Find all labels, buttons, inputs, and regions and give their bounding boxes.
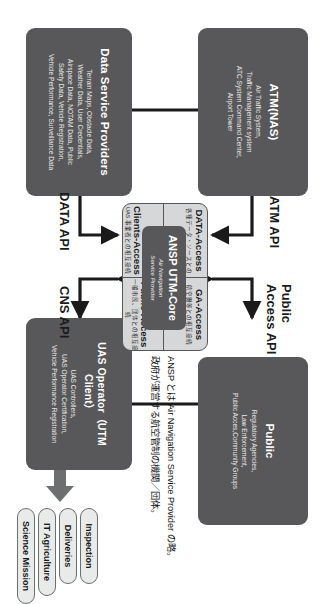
ansp-utm-core[interactable]: ANSP UTM-Core Air Navigation Service Pro… [142, 226, 186, 330]
box-public-subtitle: Regulatory Agencies, Law Enforcement, Pu… [230, 393, 258, 489]
arrow-data-api [80, 196, 118, 235]
arrow-public-api [212, 279, 252, 318]
ansp-utm-core-title: ANSP UTM-Core [167, 235, 179, 321]
pill-science-mission[interactable]: Science Mission [17, 508, 35, 604]
box-data-service-providers[interactable]: Data Service Providers Terrain Maps, Obs… [26, 28, 132, 196]
label-public-access-api: Public Access API [264, 284, 294, 354]
pill-inspection[interactable]: Inspection [80, 508, 98, 584]
quad-data-access-title: DATA-Access [194, 209, 205, 271]
box-dsp-subtitle: Terrain Maps, Obstacle Data, Weather Dat… [47, 54, 94, 170]
box-public-title: Public [263, 423, 276, 458]
box-public[interactable]: Public Regulatory Agencies, Law Enforcem… [198, 357, 308, 525]
label-data-api: DATA API [57, 192, 72, 251]
box-uas-subtitle: UAS Controllers, UAS Operator Certificat… [50, 345, 78, 443]
pill-deliveries[interactable]: Deliveries [59, 508, 77, 584]
box-uas-operator[interactable]: UAS Operator（UTM Client） UAS Controllers… [26, 318, 132, 470]
box-atm-subtitle: Air Traffic System, Traffic Management s… [226, 66, 264, 158]
box-uas-title: UAS Operator（UTM Client） [82, 324, 108, 464]
note-ansp-line2: 政府が運営する航空管制の機関／団体。 [147, 356, 162, 518]
label-atm-api: ATM API [267, 196, 282, 248]
quad-ga-access-subtitle: 航空機等との相互接続 [186, 285, 193, 345]
quad-public-access-subtitle: 一般市民、団体との相互接続 [124, 278, 138, 351]
note-ansp-line1: ANSP とは Air Navigation Service Provider … [163, 356, 178, 561]
ansp-utm-core-subtitle: Air Navigation Service Provider [149, 255, 165, 300]
box-dsp-title: Data Service Providers [98, 48, 111, 176]
quad-utm-clients-access-subtitle: UAS 事業者との相互接続 [124, 207, 131, 274]
box-atm-nas[interactable]: ATM(NAS) Air Traffic System, Traffic Man… [198, 28, 308, 196]
arrow-cns-api [80, 279, 118, 318]
quad-ga-access-title: GA-Access [194, 289, 205, 340]
ansp-utm-core-group: DATA-Access 各種データ・ソースとの 相互接続 GA-Access 航… [122, 203, 208, 351]
arrow-atm-api [212, 196, 252, 235]
pill-it-agriculture[interactable]: IT Agriculture [38, 508, 56, 596]
label-cns-api: CNS API [57, 286, 72, 338]
box-atm-title: ATM(NAS) [267, 84, 280, 141]
arrow-missions [46, 470, 74, 502]
